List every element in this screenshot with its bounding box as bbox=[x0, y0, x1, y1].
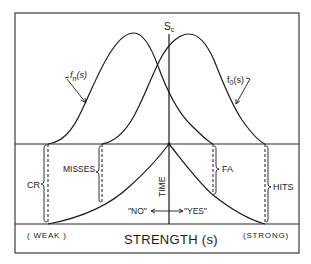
noise-curve-label: fn(s) bbox=[70, 70, 87, 82]
weak-end-label: ( WEAK ) bbox=[27, 231, 67, 240]
sdt-diagram: Sc fn(s) f0(s) CR MISSES FA HITS TIME "N… bbox=[0, 0, 311, 264]
criterion-label: Sc bbox=[164, 21, 175, 33]
diagram-frame bbox=[15, 13, 299, 253]
time-axis-label: TIME bbox=[157, 176, 167, 197]
response-double-arrow bbox=[151, 209, 183, 213]
noise-density-curve bbox=[48, 33, 213, 144]
criterion-vertex bbox=[167, 142, 170, 145]
misses-label: MISSES bbox=[63, 164, 95, 174]
strong-end-label: (STRONG) bbox=[243, 231, 289, 240]
no-response-time-curve bbox=[48, 144, 169, 224]
hits-label: HITS bbox=[273, 182, 294, 192]
misses-brace bbox=[96, 146, 101, 202]
response-no-label: "NO" bbox=[128, 206, 147, 216]
fa-brace bbox=[214, 146, 219, 194]
signal-density-curve bbox=[102, 34, 265, 144]
cr-label: CR bbox=[27, 180, 40, 190]
response-yes-label: "YES" bbox=[184, 206, 207, 216]
fa-label: FA bbox=[222, 164, 233, 174]
cr-brace bbox=[41, 145, 47, 222]
signal-curve-label: f0(s) bbox=[227, 75, 244, 86]
hits-brace bbox=[266, 146, 271, 222]
strength-axis-title: STRENGTH (s) bbox=[124, 232, 218, 247]
